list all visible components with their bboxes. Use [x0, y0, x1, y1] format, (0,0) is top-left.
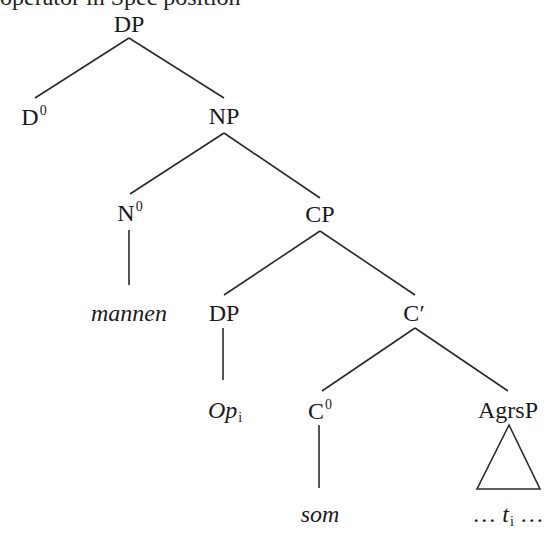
node-cbar: C′: [403, 301, 424, 325]
branch-cp-cbar: [320, 231, 415, 295]
tree-branches: [0, 0, 560, 542]
node-d0: D0: [21, 104, 46, 129]
branch-cp-dp: [224, 231, 320, 295]
branch-np-n0: [130, 133, 224, 194]
branch-dp-np: [129, 38, 224, 98]
node-trace: … ti …: [472, 502, 544, 529]
node-agrsp: AgrsP: [478, 398, 538, 422]
node-dp-root: DP: [114, 12, 145, 36]
node-op: Opi: [208, 398, 242, 425]
branch-cbar-agrsp: [415, 328, 508, 391]
branch-dp-d0: [35, 38, 129, 98]
node-n0: N0: [117, 200, 142, 225]
node-som: som: [301, 502, 340, 526]
branch-np-cp: [224, 133, 320, 198]
node-np: NP: [209, 104, 240, 128]
node-mannen: mannen: [91, 301, 167, 325]
branch-cbar-c0: [322, 328, 415, 391]
node-cp: CP: [305, 202, 334, 226]
node-c0: C0: [308, 398, 332, 423]
node-dp-spec: DP: [209, 301, 240, 325]
triangle-agrsp: [477, 425, 540, 489]
